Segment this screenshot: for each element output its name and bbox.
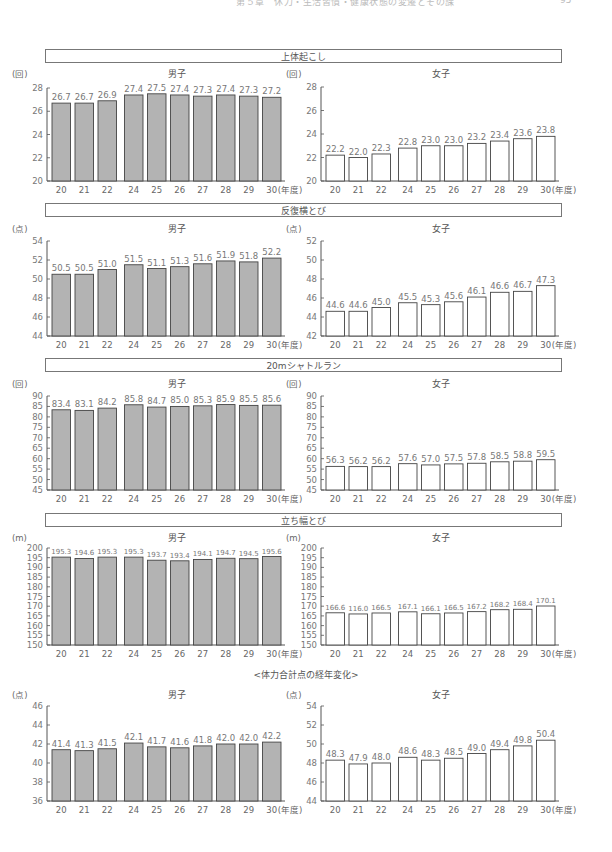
bar-value-label: 27.5	[147, 83, 166, 93]
bar	[194, 559, 213, 645]
bar	[217, 261, 236, 336]
bar-value-label: 27.4	[216, 84, 235, 94]
bar-value-label: 194.7	[216, 549, 236, 557]
bar	[399, 464, 418, 490]
x-tick-label: 26	[448, 185, 459, 195]
bar-value-label: 85.6	[262, 394, 281, 404]
x-tick-label: 24	[128, 340, 139, 350]
bar-value-label: 57.5	[444, 453, 463, 463]
bar	[240, 559, 259, 645]
y-tick-label: 26	[32, 106, 43, 116]
bar	[171, 267, 190, 336]
x-tick-label: 27	[471, 805, 482, 815]
x-tick-label: 21	[353, 649, 364, 659]
x-tick-label: 28	[494, 649, 505, 659]
y-tick-label: 20	[32, 176, 43, 186]
x-axis-unit: (年度)	[552, 185, 577, 195]
y-tick-label: 190	[27, 562, 43, 572]
bar	[372, 308, 391, 337]
bar-value-label: 51.5	[124, 254, 143, 264]
y-tick-label: 48	[32, 293, 43, 303]
x-tick-label: 29	[517, 494, 528, 504]
x-axis-unit: (年度)	[278, 340, 303, 350]
y-tick-label: 75	[32, 422, 43, 432]
y-tick-label: 80	[32, 412, 43, 422]
x-tick-label: 24	[402, 494, 413, 504]
x-tick-label: 24	[128, 805, 139, 815]
bar	[240, 262, 259, 336]
x-tick-label: 27	[197, 805, 208, 815]
y-tick-label: 155	[301, 630, 317, 640]
y-tick-label: 20	[306, 176, 317, 186]
bar	[399, 148, 418, 181]
bar-value-label: 41.6	[170, 737, 189, 747]
x-tick-label: 28	[494, 494, 505, 504]
chart-title: 男子	[168, 690, 186, 700]
bar-value-label: 42.0	[239, 733, 258, 743]
chart-title: 男子	[168, 224, 186, 234]
x-axis-unit: (年度)	[278, 805, 303, 815]
y-tick-label: 200	[27, 543, 43, 553]
x-tick-label: 24	[128, 494, 139, 504]
bar	[148, 407, 167, 490]
bar-value-label: 57.8	[467, 452, 486, 462]
bar-value-label: 83.4	[52, 399, 71, 409]
bar-value-label: 47.3	[536, 275, 555, 285]
bar	[422, 465, 441, 490]
bar	[399, 757, 418, 801]
bar-value-label: 41.5	[98, 738, 117, 748]
bar-value-label: 22.8	[398, 137, 417, 147]
y-unit-label: (点)	[12, 224, 28, 234]
chart-title: 男子	[168, 379, 186, 389]
x-tick-label: 24	[128, 185, 139, 195]
y-tick-label: 24	[306, 129, 317, 139]
bar-value-label: 166.6	[325, 604, 346, 612]
x-tick-label: 27	[471, 494, 482, 504]
bar	[75, 410, 94, 490]
x-tick-label: 24	[128, 649, 139, 659]
bar-value-label: 58.8	[513, 450, 532, 460]
bar	[148, 560, 167, 645]
bar	[468, 754, 487, 802]
x-tick-label: 29	[517, 805, 528, 815]
bar	[52, 274, 71, 336]
y-unit-label: (点)	[286, 224, 302, 234]
x-tick-label: 30	[266, 494, 277, 504]
bar	[171, 406, 190, 490]
y-tick-label: 70	[306, 433, 317, 443]
bar-value-label: 45.6	[444, 291, 463, 301]
bar	[537, 740, 556, 801]
y-tick-label: 44	[306, 796, 317, 806]
bar-value-label: 195.3	[97, 548, 117, 556]
x-tick-label: 27	[197, 340, 208, 350]
x-tick-label: 21	[79, 649, 90, 659]
bar	[514, 291, 533, 336]
chart-title: 女子	[432, 223, 450, 234]
bar-value-label: 49.0	[467, 743, 486, 753]
y-tick-label: 40	[32, 758, 43, 768]
bar	[422, 614, 441, 645]
bar-value-label: 47.9	[349, 753, 368, 763]
y-tick-label: 28	[32, 83, 43, 93]
y-tick-label: 44	[32, 720, 43, 730]
x-tick-label: 29	[517, 649, 528, 659]
bar	[372, 154, 391, 181]
bar	[98, 408, 117, 490]
x-tick-label: 25	[425, 185, 436, 195]
x-tick-label: 25	[425, 494, 436, 504]
bar	[75, 558, 94, 645]
bar-value-label: 166.5	[444, 604, 464, 612]
bar	[491, 750, 510, 801]
bar	[52, 750, 71, 801]
x-tick-label: 21	[79, 805, 90, 815]
x-tick-label: 20	[330, 340, 341, 350]
bar-value-label: 48.3	[421, 749, 440, 759]
bar	[98, 557, 117, 645]
x-tick-label: 26	[448, 649, 459, 659]
bar	[537, 136, 556, 181]
bar	[514, 746, 533, 801]
y-tick-label: 195	[301, 553, 317, 563]
x-tick-label: 25	[151, 340, 162, 350]
x-axis-unit: (年度)	[278, 649, 303, 659]
bar	[326, 155, 345, 181]
